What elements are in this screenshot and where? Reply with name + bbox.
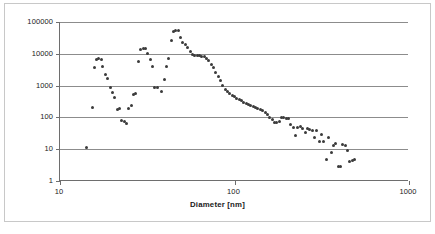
x-axis-title: Diameter [nm]	[0, 200, 435, 209]
data-point	[170, 39, 173, 42]
y-tick-label: 1	[49, 177, 53, 185]
data-point	[179, 36, 182, 39]
data-point	[214, 71, 217, 74]
data-point	[313, 136, 316, 139]
data-point	[167, 57, 170, 60]
data-point	[249, 104, 252, 107]
gridline	[60, 54, 408, 55]
data-point	[212, 66, 215, 69]
data-point	[116, 108, 119, 111]
data-point	[330, 151, 333, 154]
data-point	[125, 122, 128, 125]
data-point	[259, 108, 262, 111]
data-point	[224, 88, 227, 91]
data-point	[275, 121, 278, 124]
data-point	[205, 57, 208, 60]
data-point	[219, 79, 222, 82]
x-tick-label: 10	[55, 188, 64, 196]
data-point	[111, 91, 114, 94]
data-point	[142, 47, 145, 50]
data-point	[264, 111, 267, 114]
data-point	[151, 65, 154, 68]
data-point	[306, 127, 309, 130]
data-point	[100, 58, 103, 61]
data-point	[132, 93, 135, 96]
data-point	[337, 165, 340, 168]
y-tick-label: 100000	[27, 18, 53, 26]
data-point	[144, 47, 147, 50]
data-point	[228, 92, 231, 95]
chart-figure: Concentration [#·cm-3] 11010010001000010…	[0, 0, 435, 234]
data-point	[273, 121, 276, 124]
data-point	[238, 98, 241, 101]
data-point	[247, 103, 250, 106]
data-point	[203, 55, 206, 58]
data-point	[339, 165, 342, 168]
data-point	[184, 43, 187, 46]
data-point	[266, 113, 269, 116]
data-point	[106, 77, 109, 80]
data-point	[101, 65, 104, 68]
x-tick-label: 1000	[399, 188, 416, 196]
y-tick-label: 10	[44, 145, 53, 153]
data-point	[254, 106, 257, 109]
data-point	[353, 158, 356, 161]
data-point	[181, 41, 184, 44]
data-point	[231, 94, 234, 97]
data-point	[341, 143, 344, 146]
data-point	[351, 159, 354, 162]
data-point	[294, 134, 297, 137]
data-point	[292, 126, 295, 129]
data-point	[332, 144, 335, 147]
data-point	[308, 128, 311, 131]
data-point	[207, 59, 210, 62]
y-tick-mark	[56, 117, 60, 118]
gridline	[60, 22, 408, 23]
data-point	[348, 160, 351, 163]
data-point	[217, 75, 220, 78]
plot-area	[59, 22, 408, 181]
data-point	[91, 106, 94, 109]
y-tick-mark	[56, 54, 60, 55]
data-point	[226, 90, 229, 93]
gridline	[60, 117, 408, 118]
data-point	[318, 140, 321, 143]
x-tick-mark	[60, 181, 61, 185]
data-point	[334, 142, 337, 145]
data-point	[139, 48, 142, 51]
data-point	[95, 58, 98, 61]
data-point	[271, 118, 274, 121]
data-point	[301, 127, 304, 130]
x-tick-label: 100	[227, 188, 240, 196]
data-point	[320, 133, 323, 136]
data-point	[322, 140, 325, 143]
data-point	[172, 30, 175, 33]
data-point	[200, 55, 203, 58]
data-point	[304, 131, 307, 134]
data-point	[123, 120, 126, 123]
x-tick-mark	[409, 181, 410, 185]
data-point	[289, 123, 292, 126]
data-point	[210, 63, 213, 66]
data-point	[177, 29, 180, 32]
data-point	[120, 119, 123, 122]
data-point	[113, 96, 116, 99]
data-point	[137, 60, 140, 63]
data-point	[130, 104, 133, 107]
data-point	[165, 65, 168, 68]
data-point	[93, 66, 96, 69]
data-point	[189, 50, 192, 53]
x-tick-mark	[235, 181, 236, 185]
y-tick-mark	[56, 86, 60, 87]
data-point	[97, 57, 100, 60]
y-tick-mark	[56, 22, 60, 23]
data-point	[299, 125, 302, 128]
data-point	[315, 129, 318, 132]
y-tick-mark	[56, 149, 60, 150]
data-point	[261, 109, 264, 112]
data-series-markers	[60, 22, 408, 180]
data-point	[240, 99, 243, 102]
data-point	[245, 102, 248, 105]
data-point	[235, 97, 238, 100]
data-point	[118, 107, 121, 110]
